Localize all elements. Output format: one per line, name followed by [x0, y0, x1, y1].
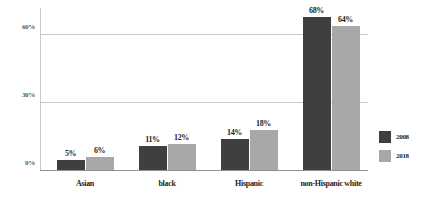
- y-tick-label: 30%: [22, 91, 40, 99]
- plot-area: 60%30%0% 5%6%Asian11%12%black14%18%Hispa…: [40, 8, 368, 171]
- y-tick-label: 60%: [22, 23, 40, 31]
- legend-swatch: [379, 150, 391, 162]
- bar: 68%: [303, 17, 331, 171]
- bar-group: 14%18%Hispanic: [221, 8, 278, 171]
- bar-chart: 60%30%0% 5%6%Asian11%12%black14%18%Hispa…: [0, 0, 427, 204]
- bar-group: 68%64%non-Hispanic white: [303, 8, 360, 171]
- legend-label: 2018: [396, 152, 409, 160]
- category-label: black: [158, 179, 175, 188]
- bar: 14%: [221, 139, 249, 171]
- legend-label: 2008: [396, 133, 409, 141]
- bar: 18%: [250, 130, 278, 171]
- bar-value-label: 64%: [338, 15, 353, 24]
- bar: 6%: [86, 157, 114, 171]
- category-label: non-Hispanic white: [300, 179, 361, 188]
- legend-swatch: [379, 131, 391, 143]
- category-label: Asian: [76, 179, 94, 188]
- y-tick-label: 0%: [25, 159, 40, 167]
- chart-legend: 20082018: [379, 131, 409, 169]
- bar: 11%: [139, 146, 167, 171]
- bar-value-label: 14%: [227, 128, 242, 137]
- x-axis-baseline: [40, 170, 368, 171]
- bar: 12%: [168, 144, 196, 171]
- bar-value-label: 68%: [309, 6, 324, 15]
- category-label: Hispanic: [235, 179, 263, 188]
- bar-group: 5%6%Asian: [57, 8, 114, 171]
- legend-item[interactable]: 2008: [379, 131, 409, 143]
- bar-group: 11%12%black: [139, 8, 196, 171]
- bar-value-label: 6%: [94, 146, 105, 155]
- bar-value-label: 5%: [65, 149, 76, 158]
- bar-value-label: 12%: [174, 133, 189, 142]
- y-axis-line: [40, 8, 41, 171]
- bar: 64%: [332, 26, 360, 171]
- legend-item[interactable]: 2018: [379, 150, 409, 162]
- bar-value-label: 18%: [256, 119, 271, 128]
- bar-value-label: 11%: [145, 135, 159, 144]
